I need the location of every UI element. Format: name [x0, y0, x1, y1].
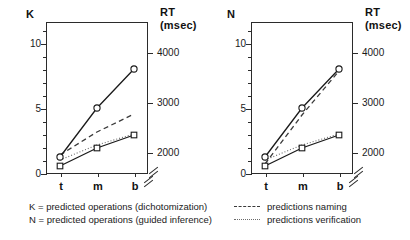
right-axis-title-line2: (msec): [160, 20, 197, 31]
marker-square: [262, 163, 268, 169]
legend-item-verification: predictions verification: [234, 213, 361, 226]
y2tick-label-3000: 3000: [362, 98, 396, 108]
right-axis-title-line1: RT: [365, 6, 380, 18]
marker-square: [57, 163, 63, 169]
marker-circle: [57, 154, 63, 160]
series-squares-N: [57, 132, 137, 169]
y2tick-label-3000: 3000: [157, 98, 191, 108]
xtick-label-b: b: [330, 181, 350, 192]
xtick-label-m: m: [88, 181, 108, 192]
marker-square: [94, 145, 100, 151]
marker-circle: [262, 154, 268, 160]
marker-square: [131, 132, 137, 138]
dashed-line-icon: [234, 206, 260, 207]
ytick-label-0: 0: [15, 169, 41, 179]
ytick-label-10: 10: [15, 39, 41, 49]
panel-left: K RT (msec) 10 5 0 4000: [0, 0, 205, 195]
legend-label-verification: predictions verification: [267, 213, 361, 226]
marker-square: [299, 145, 305, 151]
axis-break-x: [353, 167, 365, 177]
xtick-label-t: t: [51, 181, 71, 192]
legend-label-naming: predictions naming: [267, 200, 347, 213]
ytick-label-5: 5: [15, 104, 41, 114]
right-axis-title-line2: (msec): [365, 20, 402, 31]
axis-break-x: [148, 167, 160, 177]
marker-circle: [299, 105, 305, 111]
ytick-major-0: [41, 174, 47, 175]
marker-circle: [131, 66, 137, 72]
legend-label-k: K = predicted operations (dichotomizatio…: [29, 200, 207, 213]
ytick-label-10: 10: [220, 39, 246, 49]
y2tick-label-4000: 4000: [157, 48, 191, 58]
y2tick-label-4000: 4000: [362, 48, 396, 58]
ytick-label-0: 0: [220, 169, 246, 179]
marker-square: [336, 132, 342, 138]
legend-label-n: N = predicted operations (guided inferen…: [29, 213, 212, 226]
ytick-label-5: 5: [220, 104, 246, 114]
right-axis-title-line1: RT: [160, 6, 175, 18]
legend-item-naming: predictions naming: [234, 200, 361, 213]
data-layer-right: [251, 22, 353, 174]
figure-root: K RT (msec) 10 5 0 4000: [0, 0, 410, 240]
y2tick-label-2000: 2000: [362, 148, 396, 158]
panel-right: N RT (msec) 10 5 0 4000 3000: [205, 0, 410, 195]
xtick-label-m: m: [293, 181, 313, 192]
legend-column-definitions: K = predicted operations (dichotomizatio…: [29, 200, 212, 226]
xtick-label-t: t: [256, 181, 276, 192]
series-squares-N: [262, 132, 342, 169]
left-axis-title-n: N: [227, 9, 235, 20]
right-axis-title-rt-2: RT (msec): [365, 7, 402, 31]
left-axis-title-k: K: [26, 9, 34, 20]
y2tick-label-2000: 2000: [157, 148, 191, 158]
legend-item-n: N = predicted operations (guided inferen…: [29, 213, 212, 226]
legend-column-lines: predictions naming predictions verificat…: [234, 200, 361, 226]
right-axis-title-rt: RT (msec): [160, 7, 197, 31]
marker-circle: [336, 66, 342, 72]
ytick-major-0: [246, 174, 252, 175]
dotted-line-icon: [234, 219, 260, 220]
marker-circle: [94, 105, 100, 111]
figure-legend: K = predicted operations (dichotomizatio…: [0, 196, 410, 240]
xtick-label-b: b: [125, 181, 145, 192]
legend-item-k: K = predicted operations (dichotomizatio…: [29, 200, 212, 213]
data-layer-left: [46, 22, 148, 174]
